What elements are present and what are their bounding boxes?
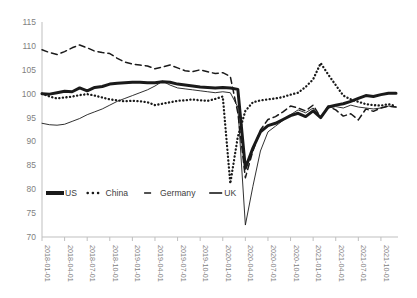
x-tick-label: 2021-04-01 xyxy=(337,245,346,282)
y-tick-label: 95 xyxy=(27,113,37,123)
chart-legend: USChinaGermanyUK xyxy=(46,188,236,198)
line-chart: 7075808590951001051101152018-01-012018-0… xyxy=(0,0,417,298)
series-group xyxy=(42,45,396,225)
x-tick-label: 2020-01-01 xyxy=(224,245,233,282)
x-tick-label: 2021-10-01 xyxy=(382,245,391,282)
legend-item-china: China xyxy=(88,188,129,198)
x-tick-label: 2020-10-01 xyxy=(292,245,301,282)
x-tick-label: 2018-07-01 xyxy=(88,245,97,282)
x-tick-label: 2019-01-01 xyxy=(133,245,142,282)
x-tick-label: 2021-07-01 xyxy=(359,245,368,282)
x-tick-label: 2018-01-01 xyxy=(43,245,52,282)
y-tick-label: 80 xyxy=(27,184,37,194)
x-tick-label: 2019-07-01 xyxy=(179,245,188,282)
y-tick-label: 105 xyxy=(22,65,36,75)
x-axis: 2018-01-012018-04-012018-07-012018-10-01… xyxy=(42,237,391,282)
x-tick-label: 2018-04-01 xyxy=(66,245,75,282)
x-tick-label: 2020-04-01 xyxy=(246,245,255,282)
y-tick-label: 85 xyxy=(27,160,37,170)
legend-label-china: China xyxy=(106,188,129,198)
legend-item-us: US xyxy=(46,188,77,198)
legend-label-uk: UK xyxy=(224,188,236,198)
x-tick-label: 2019-10-01 xyxy=(201,245,210,282)
chart-canvas: 7075808590951001051101152018-01-012018-0… xyxy=(0,0,417,298)
x-tick-label: 2020-07-01 xyxy=(269,245,278,282)
legend-item-germany: Germany xyxy=(144,188,196,198)
y-axis: 707580859095100105110115 xyxy=(22,17,36,242)
y-tick-label: 110 xyxy=(22,41,36,51)
legend-label-germany: Germany xyxy=(160,188,196,198)
x-tick-label: 2019-04-01 xyxy=(156,245,165,282)
y-tick-label: 100 xyxy=(22,89,36,99)
series-line-china xyxy=(42,63,396,183)
legend-item-uk: UK xyxy=(209,188,236,198)
legend-label-us: US xyxy=(65,188,77,198)
chart-plot-area: 7075808590951001051101152018-01-012018-0… xyxy=(0,0,417,298)
y-tick-label: 115 xyxy=(22,17,36,27)
y-tick-label: 75 xyxy=(27,208,37,218)
x-tick-label: 2018-10-01 xyxy=(111,245,120,282)
x-tick-label: 2021-01-01 xyxy=(314,245,323,282)
y-tick-label: 90 xyxy=(27,136,37,146)
y-tick-label: 70 xyxy=(27,232,37,242)
